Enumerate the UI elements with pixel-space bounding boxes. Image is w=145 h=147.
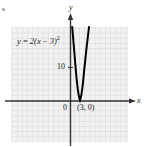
y-tick-label-10: 10 [57, 63, 65, 71]
equation-exponent: 2 [57, 35, 60, 41]
equation-root-term: 3) [50, 36, 57, 46]
equation-y: y [17, 36, 21, 46]
origin-label: 0 [63, 104, 67, 112]
equation-coefficient: 2(x [30, 36, 41, 46]
equation-minus-sign: − [43, 36, 48, 46]
vertex-point-label: (3, 0) [77, 104, 94, 112]
equation-equals: = [23, 36, 28, 46]
equation-label: y = 2(x − 3)2 [17, 37, 60, 46]
x-axis-label: x [137, 97, 141, 105]
plot-area [0, 0, 145, 147]
parabola-curve [72, 27, 89, 100]
parabola-figure: y = 2(x − 3)2 y x 10 0 (3, 0) [0, 0, 145, 147]
y-axis-label: y [69, 4, 73, 12]
